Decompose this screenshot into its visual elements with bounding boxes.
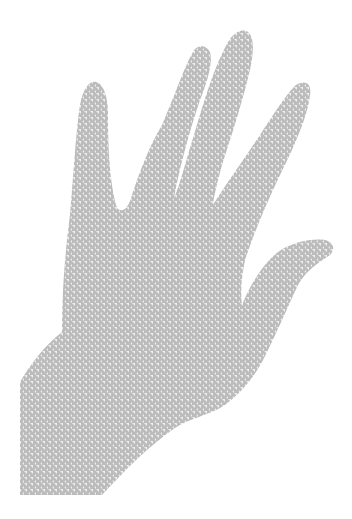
hand-shape [20,30,333,495]
image-canvas: Hand silhouette with houndstooth pattern [0,0,352,519]
hand-illustration [0,0,352,519]
